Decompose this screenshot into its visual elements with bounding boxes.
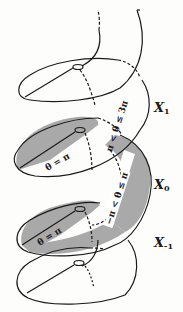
x1-right-edge xyxy=(140,80,149,130)
sheet-label-x1: X1 xyxy=(154,101,170,115)
top-cut-line xyxy=(25,68,73,97)
sheet-label-x-1: X-1 xyxy=(154,236,173,250)
sheet-label-x0: X0 xyxy=(154,178,170,192)
bottom-hole xyxy=(74,261,84,266)
bottom-cut-line xyxy=(27,265,74,293)
helix-diagram: X1 X0 X-1 π < θ ≤ 3π −π < θ ≤ π θ = π θ … xyxy=(0,0,183,312)
top-sheet-outer-edge xyxy=(19,10,143,102)
x-1-right-edge xyxy=(125,240,137,295)
helix-surface-drawing xyxy=(0,0,183,312)
top-hole xyxy=(73,65,83,70)
top-sheet-inner-curve xyxy=(82,30,100,66)
